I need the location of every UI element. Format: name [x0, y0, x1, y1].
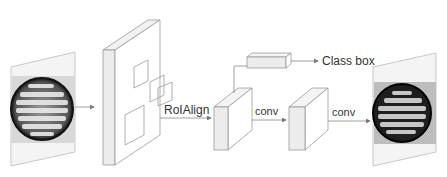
- mask-feature-cube: [289, 88, 328, 150]
- class-box-label: Class box: [322, 55, 375, 67]
- roialign-label: RoIAlign: [164, 104, 209, 116]
- mask-rcnn-diagram: [0, 0, 447, 177]
- roi-feature-cube: [214, 88, 252, 150]
- input-image: [11, 52, 75, 166]
- feature-map: [103, 20, 172, 165]
- class-box-head: [247, 53, 291, 68]
- conv-label-1: conv: [255, 106, 278, 117]
- conv-label-2: conv: [332, 107, 355, 118]
- output-image: [373, 53, 436, 166]
